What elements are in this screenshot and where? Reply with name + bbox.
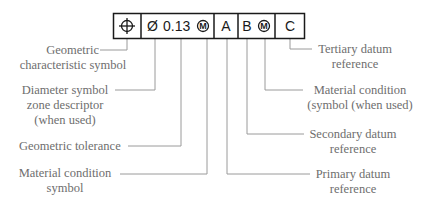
leader-geometric-characteristic bbox=[100, 38, 127, 50]
label-line: Material condition bbox=[305, 83, 415, 98]
feature-control-frame-diagram: Ø 0.13 M A B M C Geometric characteristi… bbox=[0, 0, 428, 204]
label-geometric-characteristic-2: characteristic symbol bbox=[17, 58, 129, 73]
tolerance-value: 0.13 bbox=[163, 18, 190, 34]
label-line: (symbol (when used) bbox=[305, 98, 415, 113]
feature-control-frame: Ø 0.13 M A B M C bbox=[114, 14, 305, 39]
label-line: reference bbox=[315, 57, 395, 72]
secondary-datum-letter: B bbox=[242, 18, 251, 34]
leader-material-condition-left bbox=[120, 38, 207, 174]
label-line: Primary datum bbox=[313, 167, 393, 182]
label-line: symbol bbox=[15, 181, 115, 196]
label-tertiary-datum: Tertiary datum reference bbox=[315, 42, 395, 72]
leader-primary-datum bbox=[227, 38, 310, 174]
label-line: reference bbox=[307, 142, 399, 157]
label-line: Geometric bbox=[17, 43, 99, 58]
label-geometric-tolerance: Geometric tolerance bbox=[19, 139, 121, 154]
leader-tertiary-datum bbox=[290, 38, 312, 49]
label-line: (when used) bbox=[17, 113, 113, 128]
label-geometric-characteristic: Geometric bbox=[17, 43, 99, 58]
label-line: Material condition bbox=[15, 166, 115, 181]
label-line: Secondary datum bbox=[307, 127, 399, 142]
tertiary-datum-letter: C bbox=[285, 18, 295, 34]
label-secondary-datum: Secondary datum reference bbox=[307, 127, 399, 157]
diameter-symbol: Ø bbox=[147, 18, 158, 34]
label-line: reference bbox=[313, 182, 393, 197]
label-line: zone descriptor bbox=[17, 98, 113, 113]
leader-secondary-datum bbox=[247, 38, 304, 134]
label-line: Diameter symbol bbox=[17, 83, 113, 98]
label-line: Tertiary datum bbox=[315, 42, 395, 57]
modifier-letter: M bbox=[260, 21, 268, 31]
label-diameter-symbol: Diameter symbol zone descriptor (when us… bbox=[17, 83, 113, 128]
primary-datum-letter: A bbox=[221, 18, 231, 34]
label-material-condition-right: Material condition (symbol (when used) bbox=[305, 83, 415, 113]
leader-lines bbox=[100, 38, 312, 174]
label-material-condition-left: Material condition symbol bbox=[15, 166, 115, 196]
label-line: Geometric tolerance bbox=[19, 139, 121, 154]
modifier-letter: M bbox=[199, 21, 207, 31]
label-line: characteristic symbol bbox=[17, 58, 129, 73]
label-primary-datum: Primary datum reference bbox=[313, 167, 393, 197]
leader-material-condition-right bbox=[265, 38, 303, 90]
